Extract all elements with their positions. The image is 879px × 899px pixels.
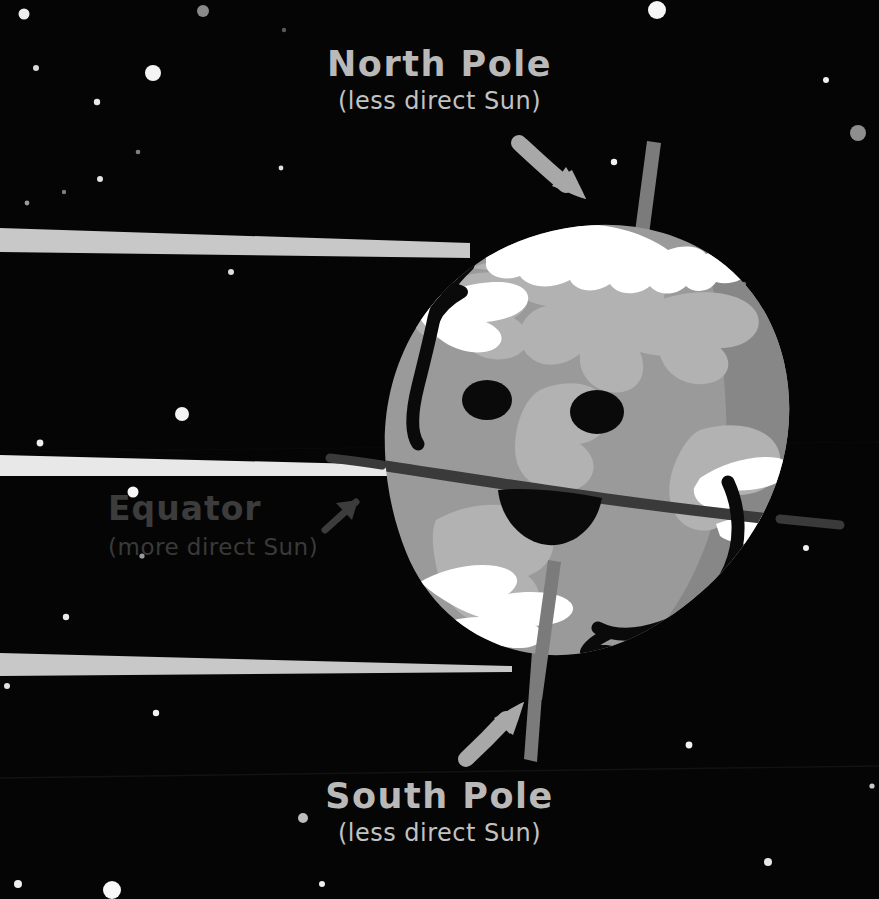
star bbox=[63, 614, 69, 620]
star bbox=[97, 176, 103, 182]
star bbox=[25, 201, 30, 206]
star bbox=[62, 190, 66, 194]
south-pole-subtitle: (less direct Sun) bbox=[0, 821, 879, 846]
star bbox=[175, 407, 189, 421]
south-pole-label: South Pole (less direct Sun) bbox=[0, 778, 879, 846]
equator-line-right bbox=[780, 519, 840, 525]
star bbox=[319, 881, 325, 887]
star bbox=[228, 269, 234, 275]
equator-subtitle: (more direct Sun) bbox=[108, 535, 318, 559]
star bbox=[686, 742, 693, 749]
right-eye bbox=[570, 390, 624, 434]
star bbox=[648, 1, 666, 19]
star bbox=[197, 5, 209, 17]
equator-title: Equator bbox=[108, 492, 318, 527]
star bbox=[19, 9, 30, 20]
star bbox=[611, 159, 617, 165]
star bbox=[850, 125, 866, 141]
star bbox=[153, 710, 159, 716]
south-pole-title: South Pole bbox=[0, 778, 879, 815]
star bbox=[803, 545, 809, 551]
star bbox=[103, 881, 121, 899]
north-pole-subtitle: (less direct Sun) bbox=[0, 89, 879, 114]
earth-tilt-illustration bbox=[0, 0, 879, 899]
north-pole-label: North Pole (less direct Sun) bbox=[0, 46, 879, 114]
left-eye bbox=[462, 380, 512, 420]
diagram-canvas: North Pole (less direct Sun) South Pole … bbox=[0, 0, 879, 899]
north-pole-title: North Pole bbox=[0, 46, 879, 83]
star bbox=[279, 166, 284, 171]
equator-label: Equator (more direct Sun) bbox=[108, 492, 318, 559]
star bbox=[37, 440, 44, 447]
star bbox=[136, 150, 141, 155]
star bbox=[282, 28, 286, 32]
star bbox=[764, 858, 772, 866]
star bbox=[4, 683, 10, 689]
star bbox=[14, 880, 22, 888]
